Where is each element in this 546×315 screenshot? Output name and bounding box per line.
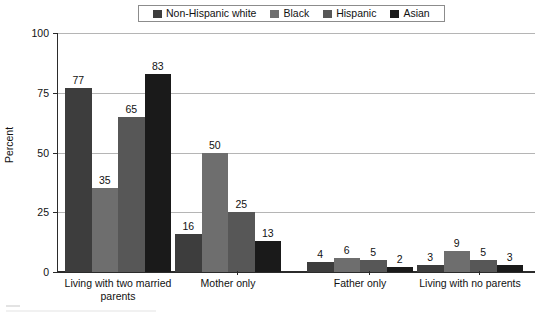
chart-legend: Non-Hispanic whiteBlackHispanicAsian [138, 5, 445, 22]
bar-value-label: 13 [253, 228, 283, 239]
bar-value-label: 3 [495, 252, 525, 263]
bar-rect [497, 265, 524, 272]
bar-value-label: 5 [358, 247, 388, 258]
category-label: Living with no parents [390, 277, 546, 290]
y-axis-tick-mark [53, 153, 57, 154]
bar: 4 [307, 262, 334, 272]
bar-rect [444, 251, 471, 273]
bar-rect [387, 267, 414, 272]
bar-value-label: 16 [173, 221, 203, 232]
legend-item-label: Non-Hispanic white [166, 8, 256, 19]
legend-swatch-icon [390, 10, 399, 18]
bar-group: 3953 [417, 33, 523, 272]
bar-value-label: 77 [63, 75, 93, 86]
y-axis-tick-label: 25 [9, 206, 49, 218]
bar: 5 [360, 260, 387, 272]
bar: 65 [118, 117, 145, 272]
bar: 50 [202, 153, 229, 273]
bar: 5 [470, 260, 497, 272]
plot-area: 773565831650251346523953 [57, 33, 535, 272]
legend-item-label: Asian [403, 8, 429, 19]
bar-value-label: 6 [332, 245, 362, 256]
x-axis-tick-mark [237, 271, 238, 275]
bar-value-label: 65 [116, 104, 146, 115]
x-axis-tick-mark [369, 271, 370, 275]
y-axis-tick-mark [53, 272, 57, 273]
bar-value-label: 9 [442, 238, 472, 249]
bar-rect [118, 117, 145, 272]
x-axis-tick-mark [479, 271, 480, 275]
bar-rect [145, 74, 172, 272]
bar-value-label: 25 [226, 199, 256, 210]
bar-rect [228, 212, 255, 272]
bar-rect [175, 234, 202, 272]
bar-value-label: 83 [143, 61, 173, 72]
bar-rect [65, 88, 92, 272]
legend-item: Black [270, 8, 309, 19]
legend-item: Asian [390, 8, 429, 19]
bar-group: 4652 [307, 33, 413, 272]
bar-rect [92, 188, 119, 272]
bar-rect [307, 262, 334, 272]
y-axis-tick-label: 75 [9, 87, 49, 99]
y-axis-tick-label: 100 [9, 27, 49, 39]
legend-item-label: Hispanic [336, 8, 376, 19]
legend-swatch-icon [270, 10, 279, 18]
bar: 83 [145, 74, 172, 272]
bar: 3 [417, 265, 444, 272]
bar-chart: Non-Hispanic whiteBlackHispanicAsian 100… [0, 0, 546, 315]
legend-item: Non-Hispanic white [153, 8, 256, 19]
bar: 9 [444, 251, 471, 273]
bar: 35 [92, 188, 119, 272]
bar-rect [202, 153, 229, 273]
y-axis-tick-mark [53, 93, 57, 94]
legend-item: Hispanic [323, 8, 376, 19]
cut-off-caption [6, 305, 196, 313]
bar-group: 16502513 [175, 33, 281, 272]
bar-value-label: 35 [90, 175, 120, 186]
bar-rect [470, 260, 497, 272]
bar: 77 [65, 88, 92, 272]
legend-swatch-icon [153, 10, 162, 18]
bar-value-label: 4 [305, 249, 335, 260]
category-label-line: Living with no parents [390, 277, 546, 290]
bar-value-label: 5 [468, 247, 498, 258]
bar-value-label: 50 [200, 140, 230, 151]
bar-rect [334, 258, 361, 272]
bar-group: 77356583 [65, 33, 171, 272]
bar-value-label: 3 [415, 252, 445, 263]
bar: 13 [255, 241, 282, 272]
bar: 3 [497, 265, 524, 272]
bar-rect [417, 265, 444, 272]
legend-item-label: Black [283, 8, 309, 19]
bar-rect [255, 241, 282, 272]
bar: 2 [387, 267, 414, 272]
y-axis-tick-mark [53, 212, 57, 213]
bar-value-label: 2 [385, 254, 415, 265]
legend-swatch-icon [323, 10, 332, 18]
bar: 16 [175, 234, 202, 272]
category-label-line: parents [38, 290, 198, 303]
bar: 25 [228, 212, 255, 272]
y-axis-title: Percent [3, 110, 15, 180]
bar: 6 [334, 258, 361, 272]
bar-rect [360, 260, 387, 272]
y-axis-tick-mark [53, 33, 57, 34]
y-axis-tick-label: 50 [9, 147, 49, 159]
